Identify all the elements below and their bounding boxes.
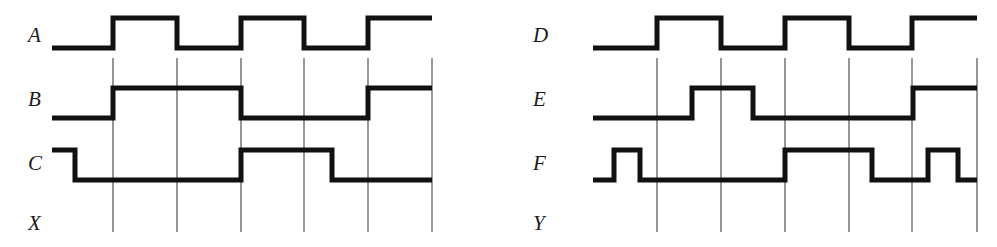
- waveform-canvas-right: [497, 0, 997, 247]
- waveform-canvas-left: [0, 0, 497, 247]
- timing-panel-left: [0, 0, 497, 247]
- waveform-B: [52, 88, 432, 118]
- timing-diagram-figure: ABCXDEFY: [0, 0, 997, 247]
- waveform-D: [593, 18, 977, 48]
- signal-label-C: C: [28, 153, 42, 174]
- signal-label-E: E: [533, 89, 546, 110]
- waveform-F: [593, 150, 977, 180]
- signal-label-Y: Y: [533, 213, 545, 234]
- timing-panel-right: [497, 0, 997, 247]
- signal-label-X: X: [28, 213, 41, 234]
- signal-label-F: F: [533, 153, 546, 174]
- waveform-C: [52, 150, 432, 180]
- signal-label-D: D: [533, 25, 548, 46]
- waveform-A: [52, 18, 432, 48]
- signal-label-B: B: [28, 89, 41, 110]
- signal-label-A: A: [28, 25, 41, 46]
